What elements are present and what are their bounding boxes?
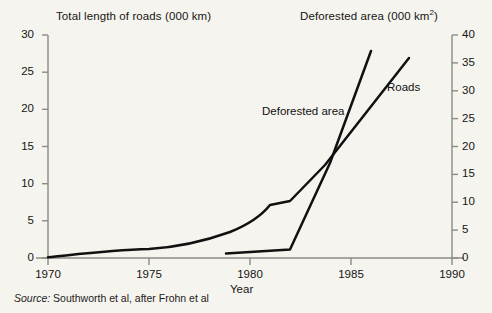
source-prefix: Source:	[14, 292, 50, 304]
source-note: Source: Southworth et al, after Frohn et…	[14, 292, 209, 304]
left-tick-10: 10	[8, 177, 34, 189]
right-tick-5: 5	[462, 223, 488, 235]
x-axis-ticks	[48, 258, 452, 265]
left-tick-20: 20	[8, 102, 34, 114]
source-text: Southworth et al, after Frohn et al	[53, 292, 209, 304]
series-label-deforested-area: Deforested area	[262, 105, 344, 117]
x-tick-1975: 1975	[129, 268, 169, 280]
chart-figure: Total length of roads (000 km) Deforeste…	[0, 0, 492, 313]
right-tick-30: 30	[462, 84, 488, 96]
right-tick-25: 25	[462, 112, 488, 124]
right-tick-40: 40	[462, 28, 488, 40]
left-tick-25: 25	[8, 65, 34, 77]
x-tick-1990: 1990	[432, 268, 472, 280]
x-tick-1980: 1980	[230, 268, 270, 280]
left-axis-ticks	[42, 35, 48, 258]
left-tick-5: 5	[8, 214, 34, 226]
right-tick-15: 15	[462, 167, 488, 179]
series-line-roads	[48, 58, 409, 257]
right-tick-35: 35	[462, 56, 488, 68]
plot-area	[0, 0, 492, 313]
x-tick-1985: 1985	[331, 268, 371, 280]
x-tick-1970: 1970	[28, 268, 68, 280]
right-tick-0: 0	[462, 251, 488, 263]
right-tick-10: 10	[462, 195, 488, 207]
left-tick-0: 0	[8, 251, 34, 263]
left-tick-15: 15	[8, 140, 34, 152]
right-axis-ticks	[452, 35, 458, 258]
x-axis-label: Year	[230, 283, 253, 295]
series-label-roads: Roads	[387, 81, 420, 93]
left-tick-30: 30	[8, 28, 34, 40]
right-tick-20: 20	[462, 140, 488, 152]
